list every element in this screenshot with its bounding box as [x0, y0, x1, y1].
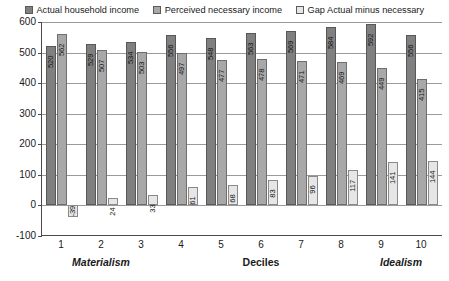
bar-group: 56947196 — [282, 22, 322, 236]
y-axis-tick-label: 300 — [19, 109, 36, 119]
x-axis-tick-labels: 12345678910 — [41, 239, 441, 252]
bar-value-label: 469 — [338, 72, 346, 84]
legend-swatch-icon — [296, 6, 304, 14]
bar-value-label: 497 — [178, 63, 186, 75]
chart-legend: Actual household incomePerceived necessa… — [0, 2, 449, 18]
legend-label: Perceived necessary income — [165, 5, 282, 15]
bar-chart: Actual household incomePerceived necessa… — [0, 0, 449, 281]
y-axis-tick-label: 400 — [19, 78, 36, 88]
bar-gap: 144 — [428, 161, 438, 205]
bar-value-label: 563 — [247, 43, 255, 55]
legend-entry: Perceived necessary income — [153, 5, 282, 15]
bar-value-label: 68 — [229, 194, 237, 202]
bar-group: 520562-39 — [42, 22, 82, 236]
bar-value-label: 562 — [58, 43, 66, 55]
bar-value-label: 83 — [269, 190, 277, 198]
bar-perceived: 449 — [377, 68, 387, 205]
bar-gap: -39 — [68, 205, 78, 217]
bar-actual: 584 — [326, 27, 336, 206]
x-axis-tick-label: 5 — [218, 239, 224, 251]
bar-value-label: 534 — [127, 52, 135, 64]
bar-group: 52950724 — [82, 22, 122, 236]
bar-value-label: -39 — [69, 206, 77, 217]
bar-perceived: 415 — [417, 79, 427, 206]
bar-actual: 548 — [206, 38, 216, 206]
x-axis-tick-label: 2 — [98, 239, 104, 251]
legend-swatch-icon — [25, 6, 33, 14]
bar-gap: 61 — [188, 187, 198, 206]
bar-actual: 556 — [166, 35, 176, 205]
bar-value-label: 449 — [378, 78, 386, 90]
bar-value-label: 24 — [109, 208, 117, 216]
bar-perceived: 503 — [137, 52, 147, 206]
bar-value-label: 415 — [418, 88, 426, 100]
bar-value-label: 144 — [429, 171, 437, 183]
bar-group: 55649761 — [162, 22, 202, 236]
bar-perceived: 562 — [57, 34, 67, 206]
bar-gap: 96 — [308, 176, 318, 205]
y-axis-tick — [38, 236, 42, 237]
bar-group: 56347883 — [242, 22, 282, 236]
legend-label: Gap Actual minus necessary — [308, 5, 424, 15]
bar-value-label: 507 — [98, 60, 106, 72]
x-axis-tick-label: 6 — [258, 239, 264, 251]
bars-layer: 520562-395295072453450333556497615484776… — [42, 22, 442, 236]
bar-value-label: 478 — [258, 69, 266, 81]
y-axis-tick-label: 200 — [19, 139, 36, 149]
x-axis-tick-label: 4 — [178, 239, 184, 251]
bar-perceived: 478 — [257, 59, 267, 205]
bar-value-label: 117 — [349, 180, 357, 192]
bar-value-label: 33 — [149, 205, 157, 213]
y-axis-tick-label: -100 — [16, 231, 36, 241]
bar-value-label: 529 — [87, 53, 95, 65]
bar-group: 556415144 — [402, 22, 442, 236]
bar-value-label: 61 — [189, 196, 197, 204]
bar-perceived: 497 — [177, 53, 187, 205]
bar-value-label: 556 — [407, 45, 415, 57]
x-axis-tick-label: 7 — [298, 239, 304, 251]
bar-actual: 529 — [86, 44, 96, 206]
bar-gap: 24 — [108, 198, 118, 205]
legend-swatch-icon — [153, 6, 161, 14]
legend-label: Actual household income — [36, 5, 139, 15]
bar-group: 592449141 — [362, 22, 402, 236]
x-axis-tick-label: 9 — [378, 239, 384, 251]
bar-group: 54847768 — [202, 22, 242, 236]
x-axis-caption: Deciles — [243, 256, 280, 269]
bar-perceived: 471 — [297, 61, 307, 205]
bar-value-label: 141 — [389, 172, 397, 184]
x-axis-caption: Materialism — [72, 256, 130, 269]
y-axis-tick-label: 600 — [19, 17, 36, 27]
y-axis-tick-label: 100 — [19, 170, 36, 180]
y-axis-tick-label: 0 — [30, 200, 36, 210]
bar-value-label: 96 — [309, 186, 317, 194]
bar-value-label: 592 — [367, 34, 375, 46]
bar-value-label: 471 — [298, 71, 306, 83]
bar-gap: 83 — [268, 180, 278, 205]
x-axis-tick-label: 1 — [58, 239, 64, 251]
bar-perceived: 469 — [337, 62, 347, 205]
bar-actual: 592 — [366, 24, 376, 205]
bar-perceived: 507 — [97, 50, 107, 205]
x-axis-caption: Idealism — [380, 256, 422, 269]
bar-actual: 556 — [406, 35, 416, 205]
bar-actual: 569 — [286, 31, 296, 205]
x-axis-tick-label: 8 — [338, 239, 344, 251]
bar-value-label: 548 — [207, 48, 215, 60]
bar-value-label: 569 — [287, 41, 295, 53]
x-axis-captions: MaterialismDecilesIdealism — [41, 256, 441, 272]
bar-actual: 534 — [126, 42, 136, 205]
y-axis-tick-label: 500 — [19, 48, 36, 58]
bar-gap: 33 — [148, 195, 158, 205]
x-axis-tick-label: 10 — [415, 239, 426, 251]
bar-actual: 563 — [246, 33, 256, 205]
bar-value-label: 556 — [167, 45, 175, 57]
legend-entry: Gap Actual minus necessary — [296, 5, 424, 15]
bar-gap: 68 — [228, 185, 238, 206]
bar-perceived: 477 — [217, 60, 227, 206]
plot-area: 6005004003002001000-100 520562-395295072… — [41, 22, 441, 236]
bar-value-label: 477 — [218, 69, 226, 81]
bar-actual: 520 — [46, 46, 56, 205]
legend-entry: Actual household income — [25, 5, 139, 15]
bar-value-label: 584 — [327, 37, 335, 49]
